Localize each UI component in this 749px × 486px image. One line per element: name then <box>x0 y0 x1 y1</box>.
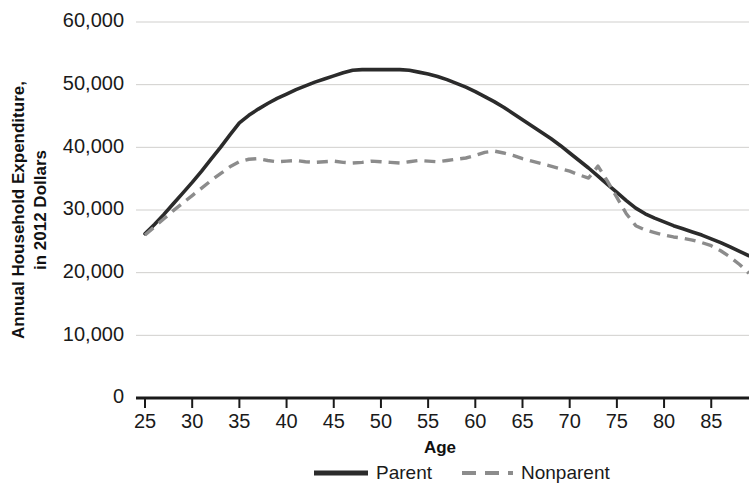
y-axis-tick-label: 0 <box>113 385 124 407</box>
y-axis-tick-labels: 010,00020,00030,00040,00050,00060,000 <box>63 9 124 407</box>
x-axis-tick-label: 55 <box>417 410 439 432</box>
legend: Parent Nonparent <box>314 462 610 483</box>
gridlines <box>136 22 749 335</box>
x-axis-tick-label: 30 <box>181 410 203 432</box>
x-axis-tick-labels: 25303540455055606570758085 <box>134 410 723 432</box>
y-axis-tick-label: 30,000 <box>63 197 124 219</box>
x-axis-tick-label: 75 <box>606 410 628 432</box>
x-axis-tick-label: 45 <box>323 410 345 432</box>
x-axis-tick-label: 80 <box>653 410 675 432</box>
x-axis-tick-label: 35 <box>228 410 250 432</box>
legend-label-nonparent: Nonparent <box>521 462 610 483</box>
x-axis-tick-label: 70 <box>559 410 581 432</box>
x-axis-tick-label: 50 <box>370 410 392 432</box>
x-axis-tick-label: 60 <box>464 410 486 432</box>
y-axis-tick-label: 60,000 <box>63 9 124 31</box>
y-axis-tick-label: 40,000 <box>63 135 124 157</box>
chart-container: 010,00020,00030,00040,00050,00060,000 25… <box>0 0 749 486</box>
x-axis-tick-label: 65 <box>511 410 533 432</box>
expenditure-by-age-line-chart: 010,00020,00030,00040,00050,00060,000 25… <box>0 0 749 486</box>
x-axis-title: Age <box>424 438 456 457</box>
x-axis-tick-label: 25 <box>134 410 156 432</box>
y-axis-title-line1: Annual Household Expenditure, <box>9 81 28 339</box>
y-axis-title-line2: in 2012 Dollars <box>31 150 50 270</box>
y-axis-tick-label: 10,000 <box>63 323 124 345</box>
legend-label-parent: Parent <box>376 462 433 483</box>
x-axis-tick-label: 40 <box>275 410 297 432</box>
series-line-nonparent <box>145 151 749 273</box>
y-axis-tick-label: 20,000 <box>63 260 124 282</box>
y-axis-tick-label: 50,000 <box>63 72 124 94</box>
x-axis-tick-label: 85 <box>700 410 722 432</box>
